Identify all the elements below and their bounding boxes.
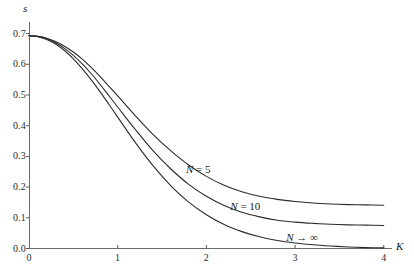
y-axis-ticks [26, 34, 29, 249]
y-tick-label: 0.1 [0, 212, 26, 223]
entropy-vs-coupling-figure: s K 0.00.10.20.30.40.50.60.7 01234 N = 5… [0, 0, 414, 276]
series-curve [29, 36, 384, 226]
x-tick-label: 0 [22, 252, 36, 263]
x-tick-label: 1 [111, 252, 125, 263]
curve-label: N = 10 [230, 200, 260, 212]
series-curve [29, 36, 384, 205]
x-tick-label: 4 [377, 252, 391, 263]
y-tick-label: 0.3 [0, 150, 26, 161]
data-curves [29, 36, 384, 248]
y-axis-label: s [23, 2, 27, 14]
x-tick-label: 2 [199, 252, 213, 263]
curve-label: N = 5 [186, 163, 211, 175]
y-tick-label: 0.7 [0, 28, 26, 39]
plot-canvas [0, 0, 414, 276]
y-tick-label: 0.4 [0, 120, 26, 131]
axes [26, 22, 392, 249]
y-tick-label: 0.5 [0, 89, 26, 100]
y-tick-label: 0.2 [0, 181, 26, 192]
curve-label: N → ∞ [286, 231, 318, 243]
x-tick-label: 3 [288, 252, 302, 263]
series-curve [29, 36, 384, 248]
x-axis-label: K [396, 240, 403, 252]
y-tick-label: 0.6 [0, 58, 26, 69]
